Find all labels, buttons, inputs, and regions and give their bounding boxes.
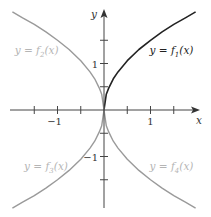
curve-f2 — [12, 12, 104, 110]
y-tick-label: 1 — [92, 59, 98, 70]
curve-label-f3: y = f3(x) — [23, 160, 68, 175]
y-tick-label: −1 — [83, 152, 98, 163]
y-axis-label: y — [90, 8, 98, 20]
x-tick-label: 1 — [147, 116, 153, 127]
curve-label-f4: y = f4(x) — [149, 160, 194, 175]
function-plot: x y −111−1y = f1(x)y = f2(x)y = f3(x)y =… — [0, 0, 211, 217]
curve-label-f1: y = f1(x) — [149, 44, 194, 59]
x-tick-label: −1 — [47, 116, 62, 127]
x-axis-label: x — [196, 114, 202, 126]
curve-label-f2: y = f2(x) — [14, 44, 59, 59]
curve-f1 — [104, 12, 196, 110]
